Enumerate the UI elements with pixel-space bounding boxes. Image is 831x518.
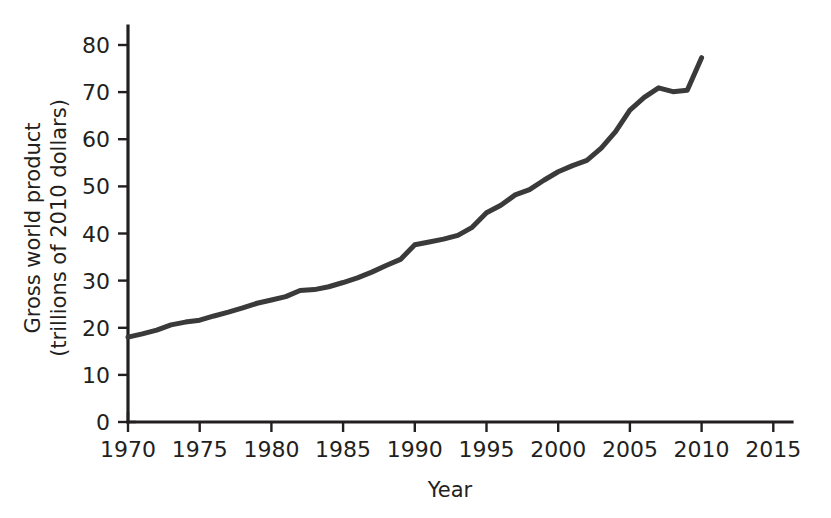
x-tick-label: 2010 — [674, 437, 730, 462]
x-tick-label: 1995 — [459, 437, 515, 462]
chart-container: 0 10 20 30 40 50 60 70 80 1970 1975 1980… — [0, 0, 831, 518]
x-axis-title: Year — [427, 478, 473, 502]
x-tick-label: 1985 — [315, 437, 371, 462]
y-axis-title-line2: (trillions of 2010 dollars) — [47, 99, 71, 357]
x-tick-label: 1980 — [243, 437, 299, 462]
y-tick-label: 20 — [82, 316, 110, 341]
y-tick-label: 70 — [82, 80, 110, 105]
y-tick-labels: 0 10 20 30 40 50 60 70 80 — [82, 33, 110, 435]
y-tick-label: 0 — [96, 410, 110, 435]
x-tick-label: 2005 — [602, 437, 658, 462]
y-axis-title-line1: Gross world product — [21, 122, 45, 333]
y-tick-label: 10 — [82, 363, 110, 388]
x-tick-label: 2015 — [745, 437, 801, 462]
x-tick-label: 2000 — [530, 437, 586, 462]
x-tick-label: 1970 — [100, 437, 156, 462]
x-tick-label: 1990 — [387, 437, 443, 462]
y-tick-label: 40 — [82, 222, 110, 247]
line-chart: 0 10 20 30 40 50 60 70 80 1970 1975 1980… — [0, 0, 831, 518]
y-tick-label: 30 — [82, 269, 110, 294]
data-line-gross-world-product — [128, 58, 702, 337]
y-tick-label: 60 — [82, 127, 110, 152]
x-tick-label: 1975 — [172, 437, 228, 462]
x-tick-labels: 1970 1975 1980 1985 1990 1995 2000 2005 … — [100, 437, 801, 462]
y-tick-label: 80 — [82, 33, 110, 58]
y-tick-label: 50 — [82, 174, 110, 199]
